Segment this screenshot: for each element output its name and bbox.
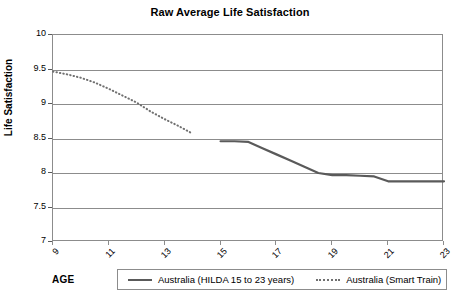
- y-tick-label: 9: [8, 97, 46, 107]
- x-tick-mark: [387, 241, 388, 245]
- x-tick-mark: [52, 241, 53, 245]
- y-tick-label: 7.5: [8, 201, 46, 211]
- x-tick-mark: [331, 241, 332, 245]
- y-tick-label: 8.5: [8, 132, 46, 142]
- y-tick-label: 10: [8, 28, 46, 38]
- x-tick-mark: [108, 241, 109, 245]
- x-tick-mark: [275, 241, 276, 245]
- data-series-line: [221, 141, 444, 181]
- data-series-line: [53, 72, 193, 134]
- y-tick-label: 9.5: [8, 63, 46, 73]
- y-tick-label: 7: [8, 235, 46, 245]
- legend: Australia (HILDA 15 to 23 years) Austral…: [117, 269, 447, 290]
- legend-item-hilda: Australia (HILDA 15 to 23 years): [128, 274, 294, 285]
- y-tick-label: 8: [8, 166, 46, 176]
- x-tick-mark: [443, 241, 444, 245]
- legend-item-smart-train: Australia (Smart Train): [316, 274, 441, 285]
- x-tick-label: 9: [10, 246, 61, 297]
- solid-line-swatch-icon: [128, 279, 152, 281]
- x-tick-mark: [164, 241, 165, 245]
- life-satisfaction-chart: Raw Average Life Satisfaction Life Satis…: [0, 0, 460, 303]
- dotted-line-swatch-icon: [316, 279, 340, 281]
- x-tick-mark: [220, 241, 221, 245]
- legend-item-label: Australia (HILDA 15 to 23 years): [158, 274, 294, 285]
- legend-item-label: Australia (Smart Train): [346, 274, 441, 285]
- chart-title: Raw Average Life Satisfaction: [0, 6, 460, 18]
- series-layer: [53, 35, 444, 242]
- x-axis-title: AGE: [52, 274, 75, 285]
- x-tick-label: 11: [66, 246, 117, 297]
- plot-area: [52, 34, 443, 241]
